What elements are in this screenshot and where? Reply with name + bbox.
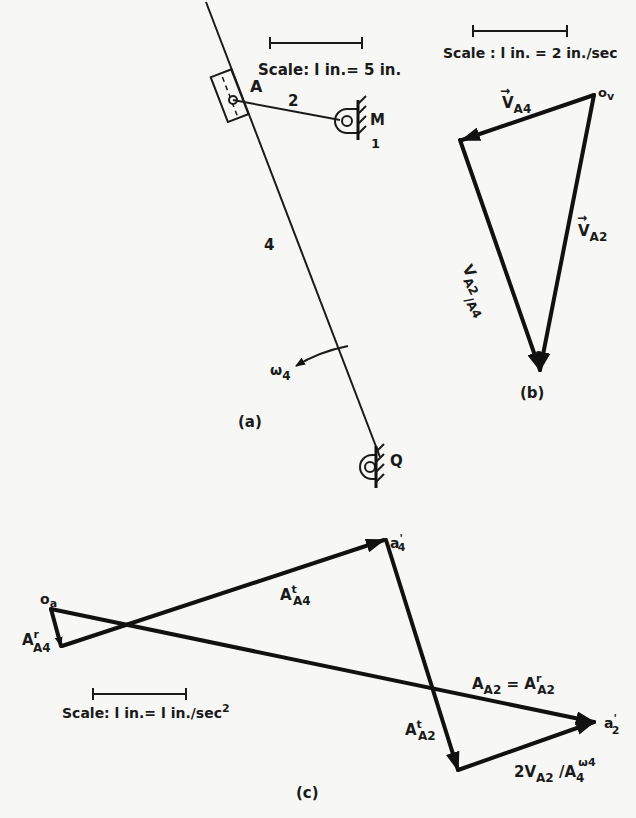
vector-a-a4-r bbox=[51, 609, 61, 646]
pole-oa: oa bbox=[40, 591, 57, 610]
caption-a: (a) bbox=[238, 413, 262, 431]
scale-label-b: Scale : l in. = 2 in./sec bbox=[443, 45, 618, 61]
scale-label-c: Scale: l in.= l in./sec2 bbox=[62, 702, 230, 721]
label-link-4: 4 bbox=[264, 236, 274, 254]
label-a: A bbox=[250, 77, 263, 96]
vector-v-a2-a4 bbox=[460, 140, 540, 370]
label-a-a4-t: AtA4 bbox=[280, 583, 311, 608]
label-link-2: 2 bbox=[288, 92, 298, 110]
omega-symbol: ω4 bbox=[270, 362, 291, 383]
label-coriolis: 2VA2 /A4ω4 bbox=[514, 756, 596, 785]
scale-bar-b bbox=[473, 25, 567, 37]
caption-b: (b) bbox=[520, 384, 544, 402]
omega-4-arrow bbox=[296, 346, 348, 366]
velocity-polygon: Scale : l in. = 2 in./sec ov VA4 → VA2 →… bbox=[443, 25, 618, 402]
label-q: Q bbox=[390, 452, 403, 470]
kinematic-analysis-figure: Scale: l in.= 5 in. A 2 M 1 4 ω4 bbox=[0, 0, 636, 818]
label-v-a2: VA2 bbox=[578, 222, 607, 244]
arrow-over-v-a2: → bbox=[577, 211, 587, 225]
mechanism-diagram: Scale: l in.= 5 in. A 2 M 1 4 ω4 bbox=[206, 2, 403, 488]
label-ground-1: 1 bbox=[371, 136, 380, 151]
label-m: M bbox=[370, 111, 385, 129]
label-a-a2-t: AtA2 bbox=[405, 718, 436, 743]
label-v-a2-a4: VA2/A4 bbox=[448, 261, 499, 320]
scale-bar-a bbox=[270, 37, 362, 49]
pole-ov: ov bbox=[598, 85, 615, 103]
caption-c: (c) bbox=[296, 784, 319, 802]
point-a4-prime: a'4 bbox=[390, 532, 406, 554]
acceleration-polygon: oa ArA4 AtA4 a'4 AtA2 AA2 = ArA2 a'2 2VA… bbox=[22, 532, 619, 802]
scale-label-a: Scale: l in.= 5 in. bbox=[258, 61, 401, 79]
label-a-a2-equals: AA2 = ArA2 bbox=[472, 672, 555, 697]
ground-pivot-m bbox=[335, 96, 366, 140]
point-a2-prime: a'2 bbox=[604, 712, 619, 737]
label-a-a4-r: ArA4 bbox=[22, 628, 51, 655]
arrow-over-v-a4: → bbox=[500, 84, 510, 98]
scale-bar-c bbox=[93, 688, 186, 700]
ground-pivot-q bbox=[360, 444, 384, 488]
vector-a-a4-t bbox=[62, 540, 384, 646]
